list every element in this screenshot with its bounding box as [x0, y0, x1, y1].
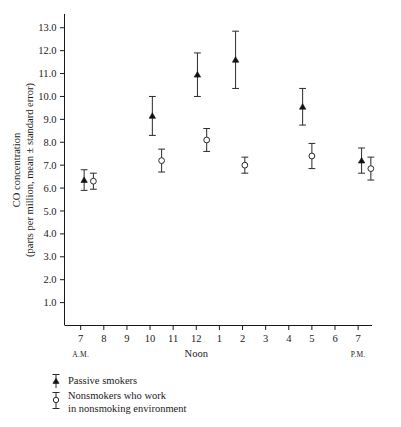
x-tick-label: 4	[286, 333, 292, 344]
x-axis-ticks	[81, 326, 358, 331]
x-tick-label: 7	[356, 333, 361, 344]
x-tick-label: 12	[191, 333, 202, 344]
marker-open-circle	[204, 137, 210, 143]
x-tick-label: 9	[124, 333, 129, 344]
legend-label-passive-smokers: Passive smokers	[68, 375, 137, 386]
data-point	[232, 31, 239, 88]
legend-label-nonsmokers-line1: Nonsmokers who work	[68, 390, 167, 401]
x-axis-tick-labels: 7891011121234567	[78, 333, 361, 344]
y-tick-label: 9.0	[43, 114, 56, 125]
legend-marker-filled-triangle	[53, 378, 59, 383]
y-tick-label: 2.0	[43, 274, 56, 285]
y-tick-label: 11.0	[39, 68, 57, 79]
data-point	[241, 157, 248, 173]
x-tick-label: 6	[332, 333, 337, 344]
x-axis-period-labels: A.M.NoonP.M.	[72, 348, 365, 359]
y-tick-label: 12.0	[38, 45, 56, 56]
y-tick-label: 5.0	[43, 206, 56, 217]
marker-filled-triangle	[232, 57, 238, 63]
legend-item-passive-smokers: Passive smokers	[53, 374, 138, 388]
co-concentration-figure: 1.02.03.04.05.06.07.08.09.010.011.012.01…	[0, 0, 401, 427]
series-nonsmokers	[90, 129, 374, 190]
marker-filled-triangle	[358, 157, 364, 163]
data-point	[299, 88, 306, 125]
x-tick-label: 8	[101, 333, 106, 344]
y-tick-label: 6.0	[43, 183, 56, 194]
x-tick-label: 10	[145, 333, 156, 344]
marker-filled-triangle	[149, 113, 155, 119]
y-tick-label: 1.0	[43, 297, 56, 308]
x-axis-pm-label: P.M.	[351, 350, 366, 359]
y-tick-label: 10.0	[38, 91, 56, 102]
marker-open-circle	[368, 166, 374, 172]
y-axis-tick-labels: 1.02.03.04.05.06.07.08.09.010.011.012.01…	[38, 22, 56, 308]
x-tick-label: 3	[263, 333, 268, 344]
y-axis-title-line1: CO concentration	[11, 132, 22, 207]
y-tick-label: 7.0	[43, 160, 56, 171]
marker-open-circle	[309, 153, 315, 159]
y-tick-label: 8.0	[43, 137, 56, 148]
y-tick-label: 3.0	[43, 251, 56, 262]
marker-filled-triangle	[194, 72, 200, 78]
legend-item-nonsmokers: Nonsmokers who work in nonsmoking enviro…	[53, 390, 187, 414]
data-point	[194, 53, 201, 97]
y-axis-title-line2: (parts per million, mean ± standard erro…	[24, 83, 36, 257]
data-point	[358, 148, 365, 173]
marker-filled-triangle	[299, 104, 305, 110]
y-axis-ticks	[60, 28, 65, 303]
data-point	[203, 129, 210, 152]
x-tick-label: 1	[217, 333, 222, 344]
data-point	[90, 173, 97, 189]
legend-marker-open-circle	[53, 397, 58, 402]
x-tick-label: 2	[240, 333, 245, 344]
x-tick-label: 7	[78, 333, 83, 344]
data-point	[158, 149, 165, 172]
data-point	[308, 143, 315, 168]
x-axis-am-label: A.M.	[72, 350, 89, 359]
x-tick-label: 5	[309, 333, 314, 344]
series-passive-smokers	[81, 31, 365, 190]
marker-open-circle	[91, 178, 97, 184]
x-axis-noon-label: Noon	[185, 348, 209, 359]
marker-filled-triangle	[81, 177, 87, 183]
data-point	[367, 157, 374, 180]
marker-open-circle	[242, 162, 248, 168]
chart-canvas: 1.02.03.04.05.06.07.08.09.010.011.012.01…	[0, 0, 401, 427]
data-point	[149, 96, 156, 135]
marker-open-circle	[159, 158, 165, 164]
y-tick-label: 4.0	[43, 228, 56, 239]
legend: Passive smokers Nonsmokers who work in n…	[53, 374, 187, 414]
legend-label-nonsmokers-line2: in nonsmoking environment	[68, 403, 186, 414]
data-point	[81, 170, 88, 191]
y-tick-label: 13.0	[38, 22, 56, 33]
x-tick-label: 11	[168, 333, 178, 344]
